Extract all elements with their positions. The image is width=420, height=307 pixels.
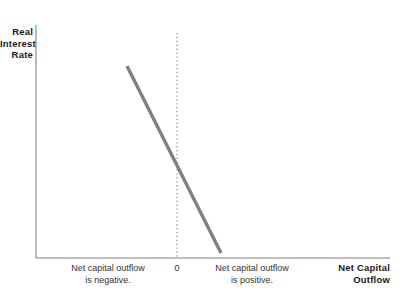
annotation-positive-outflow: Net capital outflow is positive. [192, 263, 312, 286]
annotation-negative-line-1: Net capital outflow [48, 263, 168, 275]
y-axis-title-line-1: Real [0, 26, 33, 38]
annotation-positive-line-1: Net capital outflow [192, 263, 312, 275]
net-capital-outflow-chart: Real Interest Rate Net Capital Outflow 0… [0, 0, 420, 307]
net-capital-outflow-curve [127, 66, 221, 253]
annotation-positive-line-2: is positive. [192, 275, 312, 287]
y-axis-title-line-3: Rate [0, 49, 33, 61]
y-axis-title: Real Interest Rate [0, 26, 33, 61]
x-axis-title-line-2: Outflow [300, 274, 390, 286]
y-axis-title-line-2: Interest [0, 38, 33, 50]
annotation-negative-outflow: Net capital outflow is negative. [48, 263, 168, 286]
chart-canvas [0, 0, 420, 307]
x-axis-title-line-1: Net Capital [300, 262, 390, 274]
x-axis-title: Net Capital Outflow [300, 262, 390, 285]
annotation-negative-line-2: is negative. [48, 275, 168, 287]
